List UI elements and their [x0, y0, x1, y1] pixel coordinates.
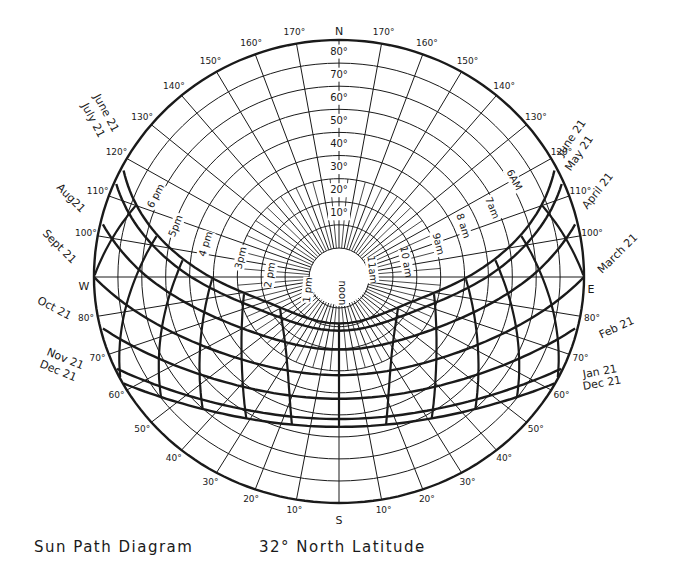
azimuth-fine-line	[296, 188, 326, 251]
azimuth-fine-line	[247, 235, 312, 264]
azimuth-label-east: 170°	[373, 27, 395, 37]
diagram-title: Sun Path Diagram	[34, 538, 193, 556]
azimuth-label-west: 170°	[284, 27, 306, 37]
azimuth-line	[358, 95, 496, 254]
azimuth-fine-line	[267, 207, 318, 256]
azimuth-fine-line	[296, 302, 326, 362]
azimuth-label-east: 150°	[457, 56, 479, 66]
azimuth-line	[362, 125, 527, 259]
azimuth-line	[151, 295, 316, 422]
azimuth-label-east: 10°	[376, 505, 392, 515]
azimuth-label-west: 60°	[109, 390, 125, 400]
azimuth-line	[182, 95, 320, 254]
azimuth-line	[367, 286, 569, 354]
azimuth-label-east: 20°	[419, 494, 435, 504]
azimuth-line	[255, 54, 329, 249]
altitude-label: 80°	[330, 46, 348, 57]
date-label-west: Oct 21	[35, 294, 73, 323]
azimuth-fine-line	[342, 305, 348, 371]
azimuth-line	[109, 196, 311, 267]
azimuth-fine-line	[352, 302, 382, 362]
date-label-west: Sept 21	[40, 227, 79, 266]
azimuth-label-east: 130°	[525, 112, 547, 122]
azimuth-label-west: 100°	[75, 228, 97, 238]
azimuth-line	[362, 295, 527, 422]
azimuth-label-west: 110°	[87, 186, 109, 196]
hour-line	[495, 260, 519, 397]
azimuth-label-west: 50°	[134, 424, 150, 434]
compass-label-s: S	[336, 514, 343, 527]
azimuth-label-west: 80°	[78, 313, 94, 323]
azimuth-label-west: 30°	[203, 477, 219, 487]
azimuth-fine-line	[330, 305, 336, 371]
azimuth-label-east: 100°	[581, 228, 603, 238]
sun-path-diagram: NSWE10°20°30°40°50°60°70°80°170°160°150°…	[0, 0, 678, 586]
sun-path-chart: NSWE10°20°30°40°50°60°70°80°170°160°150°…	[0, 0, 678, 586]
altitude-label: 20°	[330, 184, 348, 195]
altitude-label: 50°	[330, 115, 348, 126]
azimuth-label-east: 60°	[554, 390, 570, 400]
azimuth-label-east: 40°	[496, 453, 512, 463]
azimuth-label-east: 30°	[459, 477, 475, 487]
azimuth-label-west: 70°	[90, 353, 106, 363]
azimuth-label-west: 130°	[131, 112, 153, 122]
hour-line	[159, 260, 183, 397]
hour-label: 2 pm	[262, 261, 277, 288]
azimuth-label-west: 10°	[286, 505, 302, 515]
azimuth-line	[296, 304, 333, 499]
azimuth-label-west: 150°	[200, 56, 222, 66]
compass-label-e: E	[588, 283, 595, 296]
altitude-label: 70°	[330, 69, 348, 80]
azimuth-label-east: 160°	[416, 38, 438, 48]
date-label-east: Feb 21	[597, 314, 636, 341]
azimuth-label-west: 160°	[240, 38, 262, 48]
azimuth-fine-line	[352, 188, 382, 251]
azimuth-line	[109, 286, 311, 354]
latitude-label: 32° North Latitude	[259, 538, 426, 556]
date-label-west: Aug21	[54, 181, 88, 215]
azimuth-line	[349, 54, 423, 249]
altitude-label: 40°	[330, 138, 348, 149]
azimuth-fine-line	[366, 289, 431, 317]
hour-label: noon	[337, 281, 348, 306]
azimuth-label-west: 40°	[166, 453, 182, 463]
azimuth-label-west: 20°	[243, 494, 259, 504]
azimuth-label-east: 140°	[493, 81, 515, 91]
compass-label-w: W	[79, 280, 90, 293]
azimuth-label-west: 120°	[106, 147, 128, 157]
azimuth-label-east: 70°	[572, 353, 588, 363]
azimuth-label-east: 50°	[528, 424, 544, 434]
azimuth-label-west: 140°	[163, 81, 185, 91]
azimuth-label-east: 80°	[584, 313, 600, 323]
hour-label: 3pm	[232, 246, 248, 270]
azimuth-line	[344, 304, 381, 499]
altitude-label: 30°	[330, 161, 348, 172]
compass-label-n: N	[335, 25, 343, 38]
hour-label: 6 pm	[145, 182, 167, 210]
altitude-label: 10°	[330, 207, 348, 218]
altitude-label: 60°	[330, 92, 348, 103]
